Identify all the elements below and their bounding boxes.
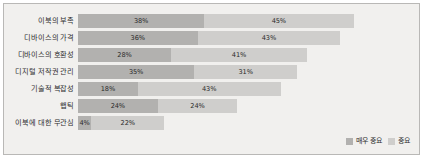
bar-track: 28%41% [78, 48, 419, 62]
bar-value-label: 43% [202, 86, 216, 93]
bar-track: 35%31% [78, 65, 419, 79]
bar-row: 디바이스의 호환성28%41% [4, 47, 419, 63]
bar-track: 36%43% [78, 31, 419, 45]
category-label: 이북의 부족 [4, 17, 78, 24]
bar-row: 디바이스의 가격36%43% [4, 30, 419, 46]
bar-value-label: 24% [190, 103, 204, 110]
bar-row: 햅틱24%24% [4, 98, 419, 114]
bar-value-label: 38% [134, 18, 148, 25]
category-label: 기술적 복잡성 [4, 85, 78, 92]
legend-label: 매우 중요 [356, 138, 381, 145]
chart-frame: 이북의 부족38%45%디바이스의 가격36%43%디바이스의 호환성28%41… [3, 3, 420, 155]
plot-area: 이북의 부족38%45%디바이스의 가격36%43%디바이스의 호환성28%41… [4, 13, 419, 125]
bar-segment: 41% [171, 48, 307, 62]
bar-value-label: 18% [101, 86, 115, 93]
bar-segment: 24% [158, 99, 238, 113]
legend-item[interactable]: 중요 [388, 138, 410, 145]
bar-value-label: 4% [80, 120, 90, 127]
bar-row: 기술적 복잡성18%43% [4, 81, 419, 97]
category-label: 디지털 저작권 관리 [4, 68, 78, 75]
bar-segment: 31% [194, 65, 297, 79]
bar-value-label: 35% [129, 69, 143, 76]
bar-segment: 4% [78, 116, 91, 130]
bar-segment: 45% [204, 14, 353, 28]
bar-segment: 43% [138, 82, 281, 96]
bar-track: 24%24% [78, 99, 419, 113]
category-label: 이북에 대한 무관심 [4, 119, 78, 126]
bar-segment: 18% [78, 82, 138, 96]
bar-segment: 24% [78, 99, 158, 113]
bar-segment: 22% [91, 116, 164, 130]
bar-segment: 43% [198, 31, 341, 45]
category-label: 햅틱 [4, 102, 78, 109]
legend-swatch-icon [346, 138, 353, 145]
bar-row: 이북의 부족38%45% [4, 13, 419, 29]
bar-row: 이북에 대한 무관심4%22% [4, 115, 419, 131]
bar-segment: 28% [78, 48, 171, 62]
bar-value-label: 36% [131, 35, 145, 42]
bar-value-label: 22% [121, 120, 135, 127]
bar-segment: 36% [78, 31, 198, 45]
bar-track: 4%22% [78, 116, 419, 130]
bar-track: 38%45% [78, 14, 419, 28]
bar-row: 디지털 저작권 관리35%31% [4, 64, 419, 80]
chart-legend: 매우 중요중요 [346, 138, 410, 145]
legend-item[interactable]: 매우 중요 [346, 138, 381, 145]
bar-segment: 35% [78, 65, 194, 79]
bar-track: 18%43% [78, 82, 419, 96]
category-label: 디바이스의 가격 [4, 34, 78, 41]
legend-label: 중요 [398, 138, 410, 145]
bar-value-label: 24% [111, 103, 125, 110]
bar-value-label: 43% [262, 35, 276, 42]
bar-value-label: 45% [272, 18, 286, 25]
bar-value-label: 28% [117, 52, 131, 59]
legend-swatch-icon [388, 138, 395, 145]
bar-value-label: 31% [238, 69, 252, 76]
category-label: 디바이스의 호환성 [4, 51, 78, 58]
bar-segment: 38% [78, 14, 204, 28]
bar-value-label: 41% [232, 52, 246, 59]
